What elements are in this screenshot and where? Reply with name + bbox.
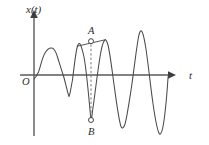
- waveform-figure: x(t) O t A B: [0, 0, 209, 145]
- x-axis-label: t: [189, 70, 192, 81]
- figure-canvas: [0, 0, 209, 145]
- waveform-curve: [34, 31, 168, 134]
- point-b-label: B: [88, 127, 94, 138]
- x-axis-arrowhead: [168, 71, 176, 79]
- point-a-label: A: [88, 26, 94, 37]
- origin-label: O: [22, 77, 30, 88]
- point-b-marker: [89, 118, 94, 123]
- y-axis-label: x(t): [26, 4, 41, 15]
- point-a-marker: [89, 39, 94, 44]
